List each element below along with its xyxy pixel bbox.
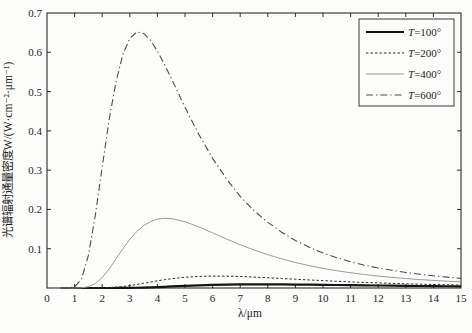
y-tick-label: 0.7 (28, 7, 42, 19)
x-tick-label: 7 (237, 292, 243, 304)
legend: T=100°T=200°T=400°T=600° (359, 19, 454, 106)
y-tick-label: 0.2 (28, 203, 42, 215)
series-line-400 (61, 218, 461, 288)
x-tick-label: 11 (345, 292, 356, 304)
x-tick-label: 12 (373, 292, 384, 304)
y-tick-label: 0.1 (28, 243, 42, 255)
legend-item-label: T=600° (408, 89, 441, 101)
x-tick-label: 8 (265, 292, 271, 304)
x-tick-label: 13 (400, 292, 412, 304)
legend-item-label: T=200° (408, 47, 441, 59)
chart: 01234567891011121314150.10.20.30.40.50.6… (0, 0, 472, 333)
y-tick-label: 0.6 (28, 46, 42, 58)
x-tick-label: 6 (210, 292, 216, 304)
y-tick-label: 0.3 (28, 164, 42, 176)
x-tick-label: 3 (127, 292, 133, 304)
legend-item-label: T=100° (408, 26, 441, 38)
x-tick-label: 0 (44, 292, 50, 304)
blackbody-spectra-figure: 01234567891011121314150.10.20.30.40.50.6… (0, 0, 472, 333)
legend-item-label: T=400° (408, 68, 441, 80)
x-tick-label: 4 (155, 292, 161, 304)
x-tick-label: 14 (428, 292, 440, 304)
y-tick-label: 0.5 (28, 86, 42, 98)
x-tick-label: 1 (72, 292, 78, 304)
y-axis-label: 光谱辐射通量密度W/(W·cm⁻²·μm⁻¹) (1, 62, 15, 239)
x-tick-label: 10 (318, 292, 330, 304)
x-axis-label: λ/μm (238, 307, 262, 320)
x-tick-label: 15 (456, 292, 468, 304)
x-tick-label: 9 (293, 292, 299, 304)
y-tick-label: 0.4 (28, 125, 42, 137)
x-tick-label: 2 (99, 292, 105, 304)
x-tick-label: 5 (182, 292, 188, 304)
